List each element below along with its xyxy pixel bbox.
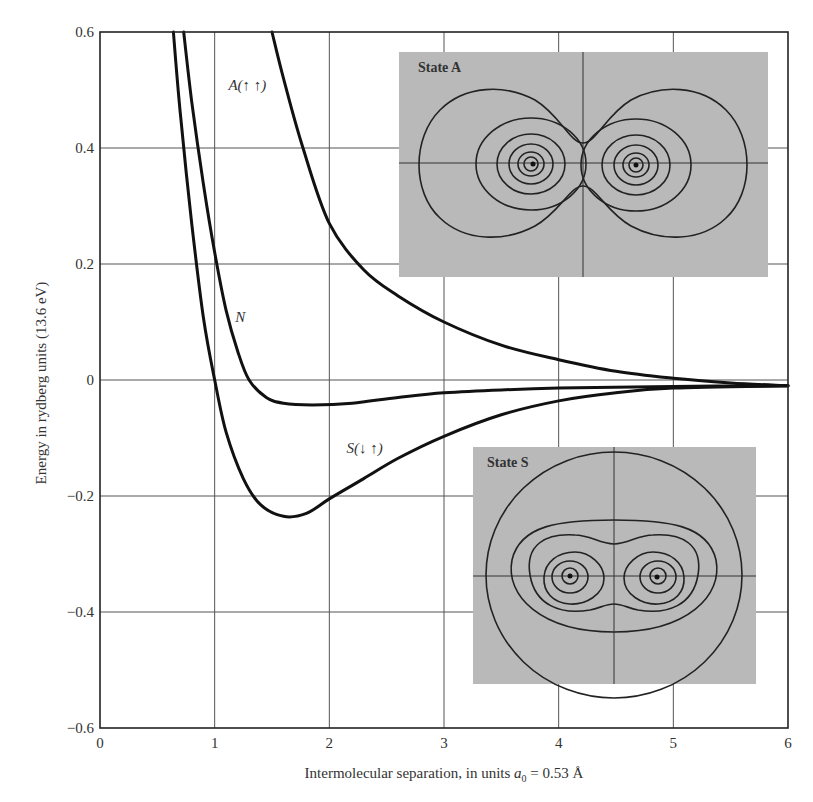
label-n: N	[234, 309, 246, 325]
x-tick-label: 0	[96, 735, 104, 751]
inset-a-title: State A	[418, 60, 462, 75]
inset-s-title: State S	[487, 455, 529, 470]
x-tick-label: 5	[670, 735, 678, 751]
x-tick-label: 6	[784, 735, 792, 751]
y-axis-ticks: 0.60.40.20−0.2−0.4−0.6	[67, 24, 95, 736]
y-tick-label: 0	[87, 372, 95, 388]
x-tick-label: 2	[326, 735, 334, 751]
inset-state-s: State S	[473, 447, 756, 698]
inset-state-a: State A	[399, 52, 768, 277]
y-tick-label: −0.2	[67, 488, 94, 504]
y-tick-label: −0.4	[67, 604, 95, 620]
x-tick-label: 3	[440, 735, 448, 751]
y-tick-label: 0.2	[75, 256, 94, 272]
potential-energy-chart: State A State S 0123456 0.60.40.20−0.2−0…	[0, 0, 813, 802]
x-axis-title: Intermolecular separation, in units a0 =…	[305, 765, 584, 784]
x-axis-ticks: 0123456	[96, 735, 792, 751]
label-s: S(↓ ↑)	[347, 440, 383, 457]
label-a: A(↑ ↑)	[227, 77, 266, 94]
x-tick-label: 1	[211, 735, 219, 751]
y-axis-title: Energy in rydberg units (13.6 eV)	[33, 282, 50, 485]
y-tick-label: 0.6	[75, 24, 94, 40]
y-tick-label: 0.4	[75, 140, 94, 156]
y-tick-label: −0.6	[67, 720, 95, 736]
x-tick-label: 4	[555, 735, 563, 751]
